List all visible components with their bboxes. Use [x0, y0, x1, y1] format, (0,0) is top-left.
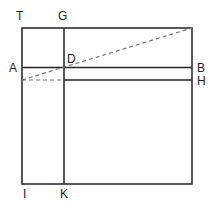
dashed-diagonal: [22, 28, 192, 80]
geometry-diagram: T G A D B H I K: [0, 0, 213, 211]
outer-square: [22, 28, 192, 184]
label-k: K: [60, 187, 68, 201]
label-h: H: [197, 74, 206, 88]
label-a: A: [9, 61, 17, 75]
label-i: I: [23, 187, 26, 201]
label-t: T: [16, 9, 24, 23]
label-d: D: [67, 52, 76, 66]
label-g: G: [58, 9, 67, 23]
label-b: B: [197, 61, 205, 75]
